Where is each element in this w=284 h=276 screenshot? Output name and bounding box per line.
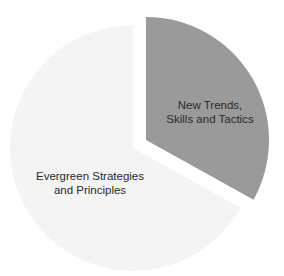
label-evergreen: Evergreen Strategies and Principles xyxy=(30,169,150,197)
label-evergreen-line-2: and Principles xyxy=(30,183,150,197)
pie-chart xyxy=(0,0,284,276)
label-new-trends: New Trends, Skills and Tactics xyxy=(160,98,260,126)
label-new-trends-line-2: Skills and Tactics xyxy=(160,112,260,126)
label-new-trends-line-1: New Trends, xyxy=(160,98,260,112)
label-evergreen-line-1: Evergreen Strategies xyxy=(30,169,150,183)
